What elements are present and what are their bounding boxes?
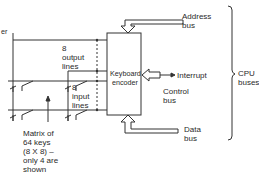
- control-bus-arrow: [142, 69, 160, 81]
- data-bus-label: Data bus: [184, 125, 201, 143]
- arrowhead-icon: [46, 96, 50, 101]
- junction-dot: [96, 109, 98, 111]
- address-bus-arrow: [121, 20, 183, 33]
- control-bus-label: Control bus: [163, 87, 189, 105]
- input-lines-label: 8 input lines: [72, 83, 89, 110]
- address-bus-label: Address bus: [182, 12, 211, 30]
- cpu-buses-brace: [228, 6, 235, 140]
- matrix-note: Matrix of 64 keys (8 X 8) – only 4 are s…: [23, 129, 58, 173]
- clipped-edge-label: er: [1, 28, 7, 37]
- output-lines-label: 8 output lines: [62, 44, 84, 71]
- data-bus-arrow: [121, 115, 178, 133]
- interrupt-label: Interrupt: [177, 71, 207, 80]
- junction-dot: [96, 70, 98, 72]
- cpu-buses-label: CPU buses: [238, 69, 259, 87]
- arrowhead-icon: [171, 73, 175, 77]
- junction-dot: [96, 80, 98, 82]
- junction-dot: [96, 39, 98, 41]
- keyboard-encoder-label: Keyboard encoder: [110, 70, 140, 87]
